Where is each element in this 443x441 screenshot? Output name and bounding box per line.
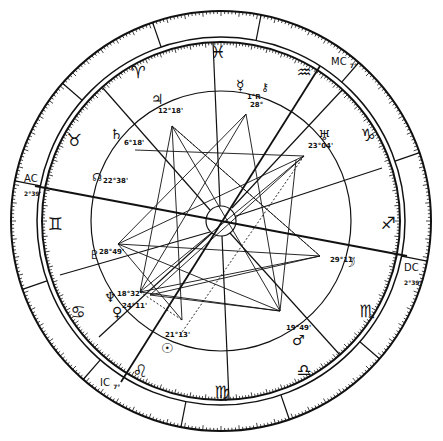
sign-cancer: ♋: [70, 302, 85, 322]
neptune-icon: ♆: [104, 290, 117, 304]
aspect-lines: [118, 114, 320, 335]
mc-ic-axis: [121, 66, 320, 382]
mc-label: MC 7°: [331, 56, 357, 69]
mc-degree: 7°: [350, 62, 357, 69]
sign-capricorn: ♑: [360, 125, 375, 145]
moon-degree: 29°11': [330, 257, 355, 264]
sun-degree: 21°13': [165, 332, 190, 339]
venus-icon: ♀: [112, 305, 122, 319]
mc-text: MC: [331, 56, 347, 67]
sign-gemini: ♊: [47, 214, 62, 234]
house-cusp-11: [213, 42, 220, 206]
uranus-icon: ♅: [318, 128, 331, 142]
mercury-icon: ☿: [236, 78, 245, 92]
saturn-icon: ♄: [110, 127, 123, 141]
uranus-degree: 23°04': [308, 143, 333, 150]
house-cusp-5: [222, 236, 229, 400]
mars-icon: ♂: [292, 333, 305, 347]
house-cusp-8: [236, 168, 382, 216]
jupiter-icon: ♃: [151, 92, 164, 106]
sign-scorpio: ♏: [359, 301, 374, 321]
venus-degree: 24°11': [122, 303, 147, 310]
chiron-icon: ⚷: [261, 82, 269, 93]
sign-libra: ♎: [296, 360, 311, 380]
pluto-degree: 28°49': [99, 249, 124, 256]
sign-aquarius: ♒: [296, 62, 311, 82]
sign-pisces: ♓: [210, 42, 225, 62]
sign-aries: ♈: [130, 62, 145, 82]
natal-chart-wheel: [0, 0, 443, 441]
ic-label: IC 7°: [100, 377, 120, 390]
sign-leo: ♌: [132, 361, 147, 381]
neptune-degree: 18°32': [117, 291, 142, 298]
saturn-degree: 6°18': [124, 140, 144, 147]
dc-label: DC 2°39': [404, 262, 421, 286]
ic-text: IC: [100, 377, 110, 388]
dc-text: DC: [404, 262, 419, 273]
ic-degree: 7°: [113, 383, 120, 390]
sign-taurus: ♉: [66, 130, 81, 150]
dc-degree: 2°39': [404, 279, 421, 286]
ac-text: AC: [24, 173, 38, 184]
mercury-degree: 1°R: [247, 94, 261, 101]
ac-label: AC 2°39': [24, 173, 41, 197]
ac-degree: 2°39': [24, 190, 41, 197]
sign-sagittarius: ♐: [380, 213, 395, 233]
sign-virgo: ♍: [214, 382, 229, 402]
jupiter-degree: 12°18': [158, 108, 183, 115]
house-cusp-2: [60, 232, 210, 275]
north-node-icon: ☊: [92, 172, 102, 183]
mars-degree: 19°49': [286, 325, 311, 332]
north-node-degree: 22°38': [103, 178, 128, 185]
chiron-degree: 28°: [250, 102, 263, 109]
sun-icon: ☉: [161, 341, 174, 355]
